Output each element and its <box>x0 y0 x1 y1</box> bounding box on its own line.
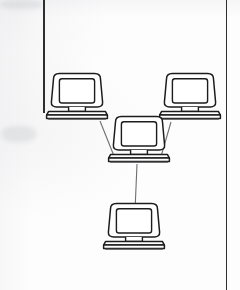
network-topology-diagram <box>0 0 240 290</box>
node-computer-top-right[interactable] <box>160 74 221 120</box>
node-computer-center[interactable] <box>109 117 170 163</box>
desktop-computer-icon <box>47 74 108 120</box>
node-computer-top-left[interactable] <box>47 74 108 120</box>
node-computer-bottom[interactable] <box>104 204 165 250</box>
desktop-computer-icon <box>104 204 165 250</box>
desktop-computer-icon <box>160 74 221 120</box>
desktop-computer-icon <box>109 117 170 163</box>
scanned-page <box>0 0 240 290</box>
network-nodes <box>47 74 221 250</box>
